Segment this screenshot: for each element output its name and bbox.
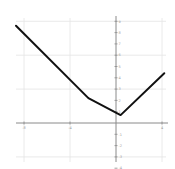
- y-tick-label: 9: [119, 20, 121, 24]
- grid-lines: [16, 18, 166, 162]
- data-series-line: [16, 26, 164, 115]
- line-chart: -8-44-4-3-2-1123456789: [0, 0, 175, 169]
- x-tick-label: -4: [68, 126, 72, 130]
- y-tick-label: -4: [119, 166, 123, 169]
- y-tick-label: 4: [119, 76, 122, 80]
- y-tick-label: 5: [119, 65, 121, 69]
- y-tick-label: 2: [119, 99, 121, 103]
- y-tick-label: -2: [119, 144, 123, 148]
- y-tick-label: 8: [119, 31, 121, 35]
- y-tick-label: -3: [119, 155, 123, 159]
- y-tick-label: 3: [119, 87, 121, 91]
- x-tick-label: -8: [22, 126, 26, 130]
- y-tick-label: -1: [119, 133, 123, 137]
- y-tick-label: 7: [119, 42, 121, 46]
- x-tick-label: 4: [161, 126, 164, 130]
- y-tick-label: 6: [119, 53, 121, 57]
